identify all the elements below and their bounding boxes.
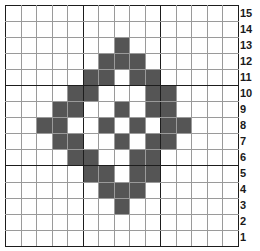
grid-cell-empty[interactable] [68, 166, 84, 182]
grid-cell-empty[interactable] [6, 38, 22, 54]
grid-cell-empty[interactable] [223, 54, 239, 70]
grid-cell-empty[interactable] [223, 38, 239, 54]
grid-cell-empty[interactable] [223, 86, 239, 102]
grid-cell-empty[interactable] [52, 54, 68, 70]
grid-cell-empty[interactable] [114, 118, 130, 134]
grid-cell-empty[interactable] [21, 70, 37, 86]
grid-cell-empty[interactable] [207, 214, 223, 230]
grid-cell-empty[interactable] [192, 70, 208, 86]
grid-cell-empty[interactable] [52, 214, 68, 230]
grid-cell-empty[interactable] [37, 214, 53, 230]
grid-cell-filled[interactable] [99, 182, 115, 198]
grid-cell-empty[interactable] [21, 198, 37, 214]
grid-cell-filled[interactable] [83, 70, 99, 86]
grid-cell-empty[interactable] [145, 230, 161, 246]
grid-cell-empty[interactable] [176, 86, 192, 102]
grid-cell-filled[interactable] [130, 150, 146, 166]
grid-cell-empty[interactable] [176, 134, 192, 150]
grid-cell-empty[interactable] [21, 166, 37, 182]
grid-cell-empty[interactable] [21, 22, 37, 38]
grid-cell-filled[interactable] [99, 166, 115, 182]
grid-cell-empty[interactable] [37, 182, 53, 198]
grid-cell-filled[interactable] [52, 102, 68, 118]
grid-cell-empty[interactable] [21, 102, 37, 118]
grid-cell-empty[interactable] [223, 150, 239, 166]
grid-cell-empty[interactable] [207, 182, 223, 198]
grid-cell-empty[interactable] [6, 150, 22, 166]
grid-cell-empty[interactable] [37, 70, 53, 86]
grid-cell-filled[interactable] [145, 102, 161, 118]
grid-cell-empty[interactable] [176, 38, 192, 54]
grid-cell-empty[interactable] [207, 150, 223, 166]
grid-cell-empty[interactable] [52, 182, 68, 198]
grid-cell-empty[interactable] [21, 38, 37, 54]
grid-cell-empty[interactable] [192, 38, 208, 54]
grid-cell-empty[interactable] [207, 134, 223, 150]
grid-cell-empty[interactable] [37, 38, 53, 54]
grid-cell-empty[interactable] [83, 118, 99, 134]
grid-cell-filled[interactable] [83, 86, 99, 102]
grid-cell-empty[interactable] [6, 70, 22, 86]
grid-cell-filled[interactable] [176, 118, 192, 134]
grid-cell-filled[interactable] [130, 118, 146, 134]
grid-cell-filled[interactable] [130, 166, 146, 182]
grid-cell-empty[interactable] [161, 182, 177, 198]
grid-cell-empty[interactable] [21, 6, 37, 22]
grid-cell-empty[interactable] [6, 22, 22, 38]
grid-cell-empty[interactable] [114, 166, 130, 182]
grid-cell-empty[interactable] [6, 86, 22, 102]
grid-cell-filled[interactable] [83, 166, 99, 182]
grid-cell-empty[interactable] [207, 38, 223, 54]
grid-cell-empty[interactable] [68, 198, 84, 214]
grid-cell-empty[interactable] [52, 86, 68, 102]
grid-cell-empty[interactable] [37, 22, 53, 38]
grid-cell-empty[interactable] [83, 22, 99, 38]
grid-cell-filled[interactable] [145, 134, 161, 150]
grid-cell-empty[interactable] [176, 150, 192, 166]
grid-cell-filled[interactable] [161, 134, 177, 150]
grid-cell-filled[interactable] [99, 70, 115, 86]
grid-cell-empty[interactable] [6, 54, 22, 70]
grid-cell-filled[interactable] [114, 102, 130, 118]
grid-cell-empty[interactable] [207, 166, 223, 182]
grid-cell-empty[interactable] [68, 6, 84, 22]
grid-cell-empty[interactable] [68, 214, 84, 230]
grid-cell-empty[interactable] [52, 38, 68, 54]
grid-cell-empty[interactable] [223, 70, 239, 86]
grid-cell-empty[interactable] [37, 166, 53, 182]
grid-cell-filled[interactable] [114, 38, 130, 54]
grid-cell-filled[interactable] [68, 150, 84, 166]
grid-cell-empty[interactable] [176, 166, 192, 182]
grid-cell-empty[interactable] [83, 134, 99, 150]
grid-cell-filled[interactable] [130, 182, 146, 198]
grid-cell-empty[interactable] [207, 86, 223, 102]
grid-cell-empty[interactable] [68, 54, 84, 70]
grid-canvas[interactable] [5, 5, 238, 246]
grid-cell-empty[interactable] [114, 150, 130, 166]
grid-cell-empty[interactable] [176, 54, 192, 70]
grid-cell-filled[interactable] [52, 134, 68, 150]
grid-cell-empty[interactable] [114, 6, 130, 22]
grid-cell-empty[interactable] [223, 230, 239, 246]
grid-cell-empty[interactable] [37, 54, 53, 70]
grid-cell-empty[interactable] [130, 22, 146, 38]
grid-cell-empty[interactable] [192, 6, 208, 22]
grid-cell-empty[interactable] [6, 230, 22, 246]
grid-cell-empty[interactable] [223, 166, 239, 182]
grid-cell-empty[interactable] [192, 134, 208, 150]
grid-cell-filled[interactable] [145, 70, 161, 86]
grid-cell-empty[interactable] [68, 38, 84, 54]
grid-cell-empty[interactable] [52, 70, 68, 86]
grid-cell-empty[interactable] [114, 86, 130, 102]
grid-cell-empty[interactable] [99, 214, 115, 230]
grid-cell-empty[interactable] [161, 198, 177, 214]
grid-cell-empty[interactable] [176, 214, 192, 230]
grid-cell-filled[interactable] [145, 86, 161, 102]
grid-cell-filled[interactable] [161, 118, 177, 134]
grid-cell-empty[interactable] [68, 22, 84, 38]
grid-cell-filled[interactable] [130, 54, 146, 70]
grid-cell-empty[interactable] [130, 38, 146, 54]
grid-cell-filled[interactable] [99, 118, 115, 134]
grid-cell-empty[interactable] [176, 102, 192, 118]
grid-cell-empty[interactable] [161, 54, 177, 70]
